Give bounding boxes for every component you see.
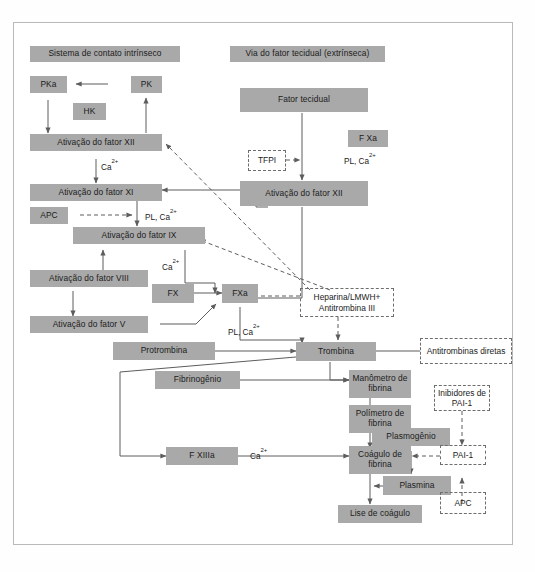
node-ativacao-fator-xi[interactable]: Ativação do fator XI [30,184,162,201]
node-trombina[interactable]: Trombina [296,342,376,361]
node-fibrinogenio[interactable]: Fibrinogênio [155,371,240,389]
node-ativacao-fator-ix[interactable]: Ativação do fator IX [73,227,205,244]
node-hk[interactable]: HK [73,103,106,120]
label-ca-xii-xi: Ca2+ [101,158,118,172]
diagram-canvas: Sistema de contato intrínseco Via do fat… [0,0,535,572]
node-fxa[interactable]: FXa [222,284,258,303]
node-apc-lower[interactable]: APC [440,492,486,514]
label-ca-ix-fx: Ca2+ [162,258,179,272]
node-manometro-fibrina[interactable]: Manômetro de fibrina [349,370,411,398]
node-tfpi[interactable]: TFPI [248,150,286,171]
node-ativacao-fator-v[interactable]: Ativação do fator V [30,316,148,333]
node-inibidores-pai1[interactable]: Inibidores de PAI-1 [434,385,490,411]
node-plasmogenio[interactable]: Plasmogênio [372,428,450,446]
node-ativacao-fator-viii[interactable]: Ativação do fator VIII [30,270,148,287]
label-pl-ca-xi-ix: PL, Ca2+ [145,208,177,222]
extrinsic-header: Via do fator tecidual (extrínseca) [230,46,385,62]
node-coagulo-fibrina[interactable]: Coágulo de fibrina [349,446,411,474]
node-pk[interactable]: PK [131,76,162,93]
node-lise-coagulo[interactable]: Lise de coágulo [338,505,422,523]
node-fator-tecidual[interactable]: Fator tecidual [240,88,368,112]
node-ativacao-fator-xii-extrinseco[interactable]: Ativação do fator XII [240,181,368,206]
intrinsic-header: Sistema de contato intrínseco [30,46,180,62]
node-heparina[interactable]: Heparina/LMWH+ Antitrombina III [300,288,394,317]
label-ca-fxiiia-coagulo: Ca2+ [250,447,267,461]
node-protrombina[interactable]: Protrombina [113,342,215,360]
node-ativacao-fator-xii-intrinseco[interactable]: Ativação do fator XII [30,134,162,151]
label-pl-ca-fxa-trombina: PL, Ca2+ [228,323,260,337]
node-fx[interactable]: FX [152,284,194,303]
node-pka[interactable]: PKa [30,76,67,93]
label-pl-ca-fxa-extrinseco: PL, Ca2+ [344,152,376,166]
node-apc-upper[interactable]: APC [30,207,68,224]
node-f-xiiia[interactable]: F XIIIa [166,447,238,465]
node-pai1[interactable]: PAI-1 [440,445,486,465]
node-antitrombinas-diretas[interactable]: Antitrombinas diretas [420,338,512,364]
node-f-xa[interactable]: F Xa [348,130,388,147]
